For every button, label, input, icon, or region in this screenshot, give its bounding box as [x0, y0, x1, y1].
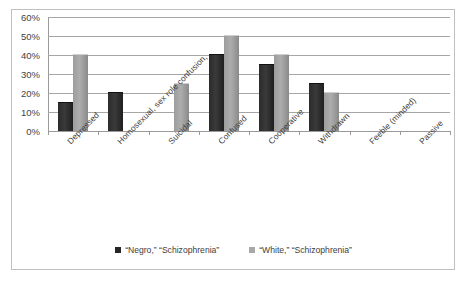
chart-legend: “Negro,” “Schizophrenia” “White,” “Schiz… [0, 245, 467, 255]
bar[interactable] [259, 64, 274, 132]
bar-group [400, 17, 450, 131]
y-axis-tick-label: 20% [21, 88, 40, 99]
y-axis-tick-label: 10% [21, 107, 40, 118]
x-axis-category-labels: DepressedHomosexual, sex role confusion,… [0, 131, 467, 231]
x-axis-tick [299, 131, 300, 135]
x-axis-tick [199, 131, 200, 135]
bar[interactable] [209, 54, 224, 131]
plot-area [48, 17, 450, 131]
x-axis-tick [98, 131, 99, 135]
legend-swatch-icon [115, 247, 121, 253]
y-axis-tick-label: 60% [21, 12, 40, 23]
x-axis-tick [400, 131, 401, 135]
bar[interactable] [58, 102, 73, 132]
bar[interactable] [108, 92, 123, 131]
legend-item[interactable]: “Negro,” “Schizophrenia” [115, 245, 219, 255]
bar[interactable] [309, 83, 324, 132]
y-axis-tick-labels: 60%50%40%30%20%10%0% [0, 17, 44, 131]
y-axis-tick-label: 30% [21, 69, 40, 80]
x-axis-tick [48, 131, 49, 135]
x-axis-tick [450, 131, 451, 135]
y-axis-tick-label: 50% [21, 31, 40, 42]
x-axis-tick [249, 131, 250, 135]
legend-item[interactable]: “White,” “Schizophrenia” [249, 245, 352, 255]
x-axis-tick [149, 131, 150, 135]
legend-swatch-icon [249, 247, 255, 253]
x-axis-tick [350, 131, 351, 135]
legend-item-label: “White,” “Schizophrenia” [259, 245, 352, 255]
y-axis-tick-label: 40% [21, 50, 40, 61]
legend-item-label: “Negro,” “Schizophrenia” [125, 245, 219, 255]
